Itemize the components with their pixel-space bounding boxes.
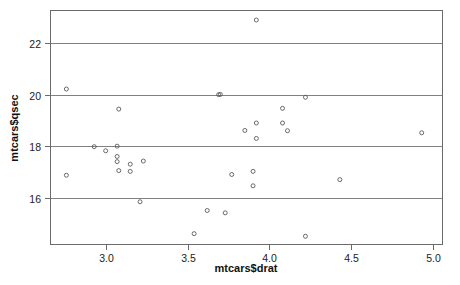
data-points <box>64 18 423 238</box>
data-point <box>251 169 255 173</box>
data-point <box>420 131 424 135</box>
data-point <box>254 136 258 140</box>
gridlines <box>50 44 443 199</box>
data-point <box>281 121 285 125</box>
data-point <box>285 129 289 133</box>
scatter-plot-figure: 3.03.54.04.55.0 16182022 mtcars$drat mtc… <box>0 0 460 285</box>
y-tick-label: 16 <box>29 193 41 205</box>
data-point <box>243 128 247 132</box>
x-axis-label: mtcars$drat <box>215 262 278 274</box>
data-point <box>251 184 255 188</box>
data-point <box>138 200 142 204</box>
data-point <box>115 160 119 164</box>
data-point <box>230 172 234 176</box>
data-point <box>141 159 145 163</box>
data-point <box>254 121 258 125</box>
data-point <box>64 173 68 177</box>
axes-frame <box>51 11 443 245</box>
data-point <box>115 154 119 158</box>
data-point <box>281 106 285 110</box>
x-tick-label: 3.0 <box>99 252 114 264</box>
x-tick-label: 4.5 <box>344 252 359 264</box>
data-point <box>128 169 132 173</box>
data-point <box>254 18 258 22</box>
data-point <box>223 211 227 215</box>
y-tick-label: 18 <box>29 141 41 153</box>
data-point <box>192 232 196 236</box>
x-tick-label: 5.0 <box>426 252 441 264</box>
data-point <box>117 169 121 173</box>
data-point <box>303 234 307 238</box>
data-point <box>128 162 132 166</box>
data-point <box>117 107 121 111</box>
y-axis-label: mtcars$qsec <box>8 94 20 161</box>
data-point <box>338 178 342 182</box>
plot-canvas: 3.03.54.04.55.0 16182022 mtcars$drat mtc… <box>0 0 460 285</box>
plot-frame <box>51 11 443 245</box>
x-tick-label: 3.5 <box>181 252 196 264</box>
data-point <box>64 87 68 91</box>
data-point <box>104 149 108 153</box>
y-tick-label: 22 <box>29 38 41 50</box>
data-point <box>205 209 209 213</box>
y-axis-ticks: 16182022 <box>29 38 50 205</box>
y-tick-label: 20 <box>29 90 41 102</box>
